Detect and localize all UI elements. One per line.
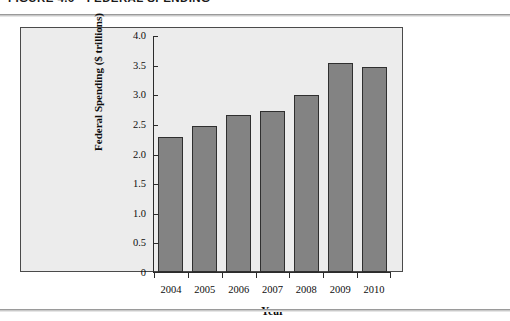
bar-2006[interactable] — [226, 115, 251, 272]
bar-2007[interactable] — [260, 111, 285, 272]
y-tick-label: 2.5 — [133, 118, 146, 131]
bar-slot-2007 — [256, 36, 290, 272]
bar-2008[interactable] — [294, 95, 319, 272]
top-divider-rule — [0, 14, 510, 17]
x-tick-mark — [357, 273, 358, 278]
plot-area: 4.0 3.5 3.0 2.5 2.0 1.5 1.0 0.5 — [153, 36, 391, 273]
x-tick-mark — [222, 273, 223, 278]
x-axis-labels: 2004 2005 2006 2007 2008 2009 2010 — [154, 284, 391, 295]
x-tick-mark — [390, 273, 391, 278]
x-tick-label-2010: 2010 — [357, 284, 391, 295]
y-axis-title: Federal Spending ($ trillions) — [92, 0, 104, 172]
x-tick-cell — [188, 273, 222, 278]
x-tick-cell — [222, 273, 256, 278]
y-tick-label: 1.0 — [133, 207, 146, 220]
x-tick-mark — [154, 273, 155, 278]
x-tick-label-2006: 2006 — [222, 284, 256, 295]
x-tick-mark — [256, 273, 257, 278]
y-tick-label: 4.0 — [133, 29, 146, 42]
bar-slot-2005 — [188, 36, 222, 272]
x-tick-label-2005: 2005 — [188, 284, 222, 295]
x-tick-label-2009: 2009 — [323, 284, 357, 295]
bottom-divider-rule — [0, 309, 510, 312]
figure-caption-number: FIGURE 4.6 — [8, 0, 75, 4]
bar-slot-2006 — [222, 36, 256, 272]
bar-2005[interactable] — [192, 126, 217, 272]
y-tick-label: 1.5 — [133, 177, 146, 190]
x-tick-label-2004: 2004 — [154, 284, 188, 295]
x-tick-cell — [289, 273, 323, 278]
y-tick-label: 0.5 — [133, 236, 146, 249]
x-tick-cell — [357, 273, 391, 278]
y-tick-label: 3.5 — [133, 59, 146, 72]
x-tick-mark — [289, 273, 290, 278]
bar-2004[interactable] — [158, 137, 183, 272]
x-tick-cell — [323, 273, 357, 278]
x-tick-mark — [323, 273, 324, 278]
bar-2009[interactable] — [328, 63, 353, 272]
bar-slot-2004 — [154, 36, 188, 272]
y-tick-label: 0 — [141, 266, 146, 279]
x-tick-mark — [188, 273, 189, 278]
x-tick-label-2007: 2007 — [256, 284, 290, 295]
figure-caption: FIGURE 4.6FEDERAL SPENDING — [8, 0, 210, 8]
y-tick-label: 2.0 — [133, 148, 146, 161]
x-tick-cell — [256, 273, 290, 278]
figure-caption-title: FEDERAL SPENDING — [87, 0, 211, 4]
bar-slot-2008 — [289, 36, 323, 272]
bar-slot-2009 — [323, 36, 357, 272]
bar-series — [154, 36, 391, 272]
chart-frame: Federal Spending ($ trillions) 4.0 3.5 3… — [20, 27, 403, 272]
bar-2010[interactable] — [362, 67, 387, 272]
x-axis-ticks — [154, 273, 391, 278]
x-tick-cell — [154, 273, 188, 278]
x-tick-label-2008: 2008 — [289, 284, 323, 295]
bar-slot-2010 — [357, 36, 391, 272]
y-tick-label: 3.0 — [133, 88, 146, 101]
